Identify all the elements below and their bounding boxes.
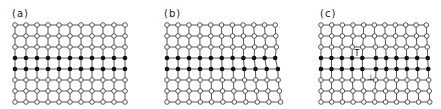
open-atom [278, 100, 283, 105]
open-atom [263, 34, 268, 39]
open-atom [123, 23, 128, 28]
open-atom [165, 100, 170, 105]
open-atom [360, 78, 365, 83]
open-atom [241, 45, 246, 50]
open-atom [319, 100, 324, 105]
filled-atom [123, 56, 128, 61]
filled-atom [384, 67, 389, 72]
open-atom [198, 78, 203, 83]
panel-a: (a) [0, 0, 147, 109]
open-atom [255, 100, 260, 105]
open-atom [361, 23, 366, 28]
open-atom [90, 45, 95, 50]
filled-atom [374, 56, 379, 61]
open-atom [165, 78, 170, 83]
filled-atom [46, 56, 51, 61]
filled-atom [253, 67, 258, 72]
filled-atom [426, 67, 431, 72]
open-atom [165, 34, 170, 39]
open-atom [220, 45, 225, 50]
open-atom [68, 78, 73, 83]
open-atom [416, 100, 421, 105]
open-atom [90, 78, 95, 83]
open-atom [405, 78, 410, 83]
open-atom [340, 45, 345, 50]
open-atom [404, 34, 409, 39]
open-atom [24, 45, 29, 50]
open-atom [405, 100, 410, 105]
open-atom [319, 34, 324, 39]
open-atom [209, 45, 214, 50]
open-atom [232, 89, 237, 94]
open-atom [68, 100, 73, 105]
open-atom [24, 23, 29, 28]
open-atom [46, 100, 51, 105]
open-atom [426, 78, 431, 83]
open-atom [273, 23, 278, 28]
open-atom [13, 23, 18, 28]
open-atom [253, 78, 258, 83]
open-atom [101, 34, 106, 39]
panel-c: (c) T⊥ [294, 0, 441, 109]
filled-atom [252, 56, 257, 61]
open-atom [340, 34, 345, 39]
open-atom [360, 45, 365, 50]
open-atom [394, 89, 399, 94]
open-atom [68, 34, 73, 39]
open-atom [187, 89, 192, 94]
open-atom [24, 89, 29, 94]
filled-atom [241, 56, 246, 61]
open-atom [393, 23, 398, 28]
open-atom [165, 45, 170, 50]
open-atom [262, 23, 267, 28]
open-atom [340, 23, 345, 28]
open-atom [198, 100, 203, 105]
open-atom [263, 45, 268, 50]
filled-atom [57, 67, 62, 72]
open-atom [176, 89, 181, 94]
filled-atom [79, 56, 84, 61]
open-atom [372, 34, 377, 39]
open-atom [372, 23, 377, 28]
open-atom [424, 23, 429, 28]
filled-atom [187, 56, 192, 61]
filled-atom [340, 67, 345, 72]
filled-atom [176, 67, 181, 72]
open-atom [252, 34, 257, 39]
open-atom [265, 78, 270, 83]
open-atom [230, 34, 235, 39]
open-atom [329, 78, 334, 83]
filled-atom [90, 67, 95, 72]
open-atom [101, 45, 106, 50]
filled-atom [198, 56, 203, 61]
open-atom [252, 45, 257, 50]
open-atom [329, 100, 334, 105]
open-atom [232, 100, 237, 105]
filled-atom [405, 67, 410, 72]
open-atom [241, 23, 246, 28]
filled-atom [360, 56, 365, 61]
open-atom [383, 45, 388, 50]
open-atom [68, 89, 73, 94]
dislocation-up-symbol: ⊥ [368, 73, 375, 82]
open-atom [165, 23, 170, 28]
open-atom [24, 34, 29, 39]
open-atom [101, 100, 106, 105]
filled-atom [319, 67, 324, 72]
filled-atom [35, 56, 40, 61]
open-atom [351, 100, 356, 105]
filled-atom [425, 56, 430, 61]
open-atom [220, 78, 225, 83]
panel-b: (b) [147, 0, 294, 109]
open-atom [35, 23, 40, 28]
open-atom [176, 78, 181, 83]
open-atom [427, 100, 432, 105]
open-atom [176, 34, 181, 39]
filled-atom [209, 56, 214, 61]
lattice-a [0, 0, 147, 109]
filled-atom [13, 67, 18, 72]
open-atom [416, 89, 421, 94]
open-atom [393, 34, 398, 39]
open-atom [198, 34, 203, 39]
open-atom [274, 34, 279, 39]
